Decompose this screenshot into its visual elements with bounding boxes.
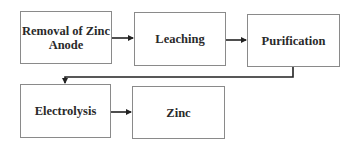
node-leaching: Leaching bbox=[134, 12, 226, 66]
arrow-purification-to-electrolysis bbox=[65, 67, 293, 83]
node-label: Electrolysis bbox=[35, 104, 97, 118]
node-label: Purification bbox=[262, 34, 326, 48]
node-label: Zinc bbox=[166, 106, 190, 120]
node-removal-of-zinc-anode: Removal of Zinc Anode bbox=[20, 11, 112, 64]
node-purification: Purification bbox=[247, 14, 340, 67]
node-zinc: Zinc bbox=[132, 86, 225, 139]
node-label: Removal of Zinc Anode bbox=[21, 24, 111, 52]
node-label: Leaching bbox=[155, 32, 204, 46]
node-electrolysis: Electrolysis bbox=[20, 84, 111, 138]
